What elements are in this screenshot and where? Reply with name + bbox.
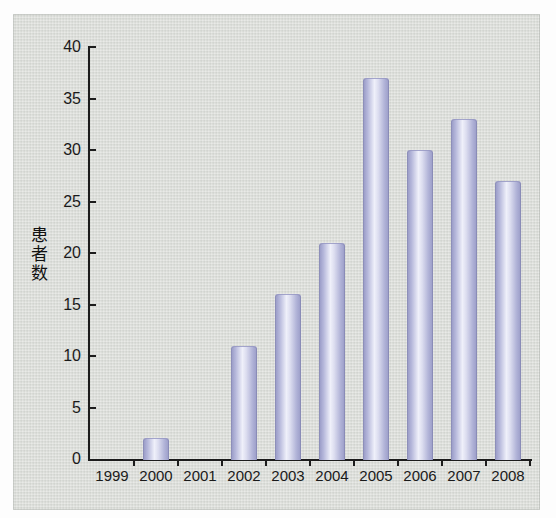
y-tick-label: 30 (35, 141, 81, 159)
bar (451, 119, 477, 460)
bar (319, 243, 345, 460)
bar (231, 346, 257, 460)
y-tick-mark (90, 98, 96, 100)
x-tick-mark (133, 461, 135, 466)
x-tick-mark (353, 461, 355, 466)
y-tick-label: 35 (35, 90, 81, 108)
chart-figure: 患者数 0510152025303540 1999200020012002200… (0, 0, 556, 518)
y-tick-mark (90, 46, 96, 48)
x-tick-mark (397, 461, 399, 466)
y-tick-mark (90, 252, 96, 254)
bar (495, 181, 521, 460)
y-tick-label: 40 (35, 38, 81, 56)
y-tick-label: 20 (35, 244, 81, 262)
x-tick-mark (441, 461, 443, 466)
x-tick-mark (309, 461, 311, 466)
y-tick-mark (90, 355, 96, 357)
y-tick-label: 25 (35, 193, 81, 211)
x-tick-mark (265, 461, 267, 466)
y-tick-mark (90, 407, 96, 409)
x-tick-label: 2008 (482, 467, 534, 484)
x-tick-mark (177, 461, 179, 466)
bar (363, 78, 389, 460)
y-tick-mark (90, 201, 96, 203)
x-tick-mark (221, 461, 223, 466)
y-tick-label: 0 (35, 450, 81, 468)
x-tick-mark (485, 461, 487, 466)
bar (275, 294, 301, 460)
y-tick-label: 15 (35, 296, 81, 314)
y-tick-mark (90, 149, 96, 151)
bar (143, 438, 169, 460)
bar (407, 150, 433, 460)
x-tick-mark (529, 461, 531, 466)
y-tick-mark (90, 304, 96, 306)
y-tick-label: 10 (35, 347, 81, 365)
y-tick-label: 5 (35, 399, 81, 417)
